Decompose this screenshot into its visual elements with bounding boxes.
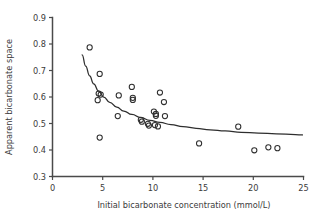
x-tick-label: 0 [50,183,55,193]
x-axis-tick-labels: 0510152025 [50,183,309,193]
data-point [97,71,102,76]
axis-tick-marks [49,18,304,181]
y-tick-label: 0.6 [33,92,46,102]
x-tick-label: 20 [248,183,258,193]
fitted-curve [82,55,302,135]
y-axis-title: Apparent bicarbonate space [4,39,14,155]
x-tick-label: 5 [100,183,105,193]
data-point [87,45,92,50]
y-tick-label: 0.7 [33,66,46,76]
data-point [236,124,241,129]
data-point [116,93,121,98]
data-point [252,148,257,153]
x-tick-label: 25 [298,183,308,193]
data-point [162,113,167,118]
y-tick-label: 0.5 [33,119,46,129]
data-point [157,90,162,95]
y-tick-label: 0.9 [33,13,46,23]
data-point [115,113,120,118]
data-point-group [87,45,280,153]
x-tick-label: 15 [198,183,208,193]
chart-figure: 0.30.40.50.60.70.80.9 0510152025 Initial… [0,0,324,222]
x-axis-title: Initial bicarbonate concentration (mmol/… [97,200,270,210]
data-point [196,141,201,146]
data-point [97,135,102,140]
data-point [275,146,280,151]
data-point [266,145,271,150]
y-tick-label: 0.8 [33,39,46,49]
data-point [129,84,134,89]
scatter-plot: 0.30.40.50.60.70.80.9 0510152025 Initial… [0,0,324,222]
data-point [95,98,100,103]
y-axis-tick-labels: 0.30.40.50.60.70.80.9 [33,13,46,182]
y-tick-label: 0.3 [33,172,46,182]
data-point [161,99,166,104]
x-tick-label: 10 [148,183,158,193]
y-tick-label: 0.4 [33,145,46,155]
